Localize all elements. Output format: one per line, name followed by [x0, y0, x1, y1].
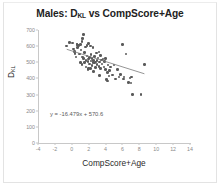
x-tick-mark	[88, 143, 89, 145]
y-axis-label-subscript: KL	[10, 65, 16, 72]
trendline	[38, 30, 190, 143]
x-tick-label: 0	[70, 146, 73, 152]
chart-title-rest: vs CompScore+Age	[86, 8, 184, 19]
x-axis-line	[38, 143, 191, 144]
x-tick-mark	[54, 143, 55, 145]
x-tick-label: 12	[170, 146, 176, 152]
x-tick-label: 2	[87, 146, 90, 152]
x-tick-mark	[190, 143, 191, 145]
x-tick-mark	[122, 143, 123, 145]
x-tick-label: -2	[53, 146, 58, 152]
y-axis-label: DKL	[6, 65, 16, 78]
x-tick-label: 14	[187, 146, 193, 152]
plot-area: 0100200300400500600700 -4-202468101214	[38, 30, 190, 143]
x-tick-label: -4	[36, 146, 41, 152]
x-tick-mark	[105, 143, 106, 145]
chart-title-main: Males: D	[36, 8, 77, 19]
x-tick-mark	[173, 143, 174, 145]
x-axis-label: CompScore+Age	[38, 158, 190, 168]
x-tick-mark	[38, 143, 39, 145]
x-tick-mark	[139, 143, 140, 145]
y-axis-label-main: D	[6, 72, 16, 78]
x-tick-mark	[156, 143, 157, 145]
chart-title: Males: DKL vs CompScore+Age	[0, 8, 220, 19]
x-tick-label: 6	[121, 146, 124, 152]
x-tick-label: 4	[104, 146, 107, 152]
chart-figure: Males: DKL vs CompScore+Age DKL CompScor…	[0, 0, 220, 189]
x-tick-label: 10	[153, 146, 159, 152]
x-tick-mark	[71, 143, 72, 145]
chart-title-subscript: KL	[77, 12, 86, 19]
regression-equation-annotation: y = -16.479x + 570.6	[50, 111, 103, 117]
x-tick-label: 8	[138, 146, 141, 152]
